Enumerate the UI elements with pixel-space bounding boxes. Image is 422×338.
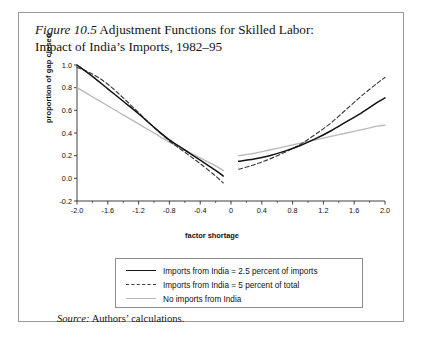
y-axis-tick-label: 0.2 — [62, 151, 72, 160]
series-line — [239, 77, 385, 169]
series-line — [77, 67, 223, 183]
x-axis-tick-label: 0.4 — [257, 206, 267, 215]
x-axis-tick-label: 1.6 — [349, 206, 359, 215]
y-axis-tick-label: 0.6 — [62, 106, 72, 115]
legend-item: No imports from India — [126, 292, 362, 306]
chart-plot-area: proportion of gap closed -0.20.00.20.40.… — [33, 59, 391, 249]
y-axis-tick-label: 0.4 — [62, 129, 72, 138]
source-value: Authors’ calculations. — [90, 313, 185, 324]
figure-frame: Figure 10.5 Adjustment Functions for Ski… — [18, 12, 404, 322]
series-line — [77, 88, 223, 171]
x-axis-title: factor shortage — [33, 231, 391, 240]
y-axis-tick-label: 0.8 — [62, 83, 72, 92]
y-axis-tick-label: 1.0 — [62, 61, 72, 70]
x-axis-tick-label: -1.6 — [102, 206, 115, 215]
x-axis-tick-label: 1.2 — [318, 206, 328, 215]
x-axis-tick-label: 0.8 — [288, 206, 298, 215]
chart-legend: Imports from India = 2.5 percent of impo… — [115, 258, 363, 308]
legend-item-label: Imports from India = 5 percent of total — [163, 281, 299, 290]
y-axis-tick-label: -0.2 — [59, 197, 72, 206]
legend-item: Imports from India = 5 percent of total — [126, 278, 362, 292]
x-axis-tick-label: -1.2 — [132, 206, 145, 215]
legend-item: Imports from India = 2.5 percent of impo… — [126, 264, 362, 278]
x-axis-tick-label: -0.8 — [163, 206, 176, 215]
legend-item-label: Imports from India = 2.5 percent of impo… — [163, 267, 318, 276]
legend-key-icon — [126, 280, 156, 290]
legend-key-icon — [126, 266, 156, 276]
legend-key-icon — [126, 294, 156, 304]
figure-title: Figure 10.5 Adjustment Functions for Ski… — [35, 21, 387, 55]
adjustment-function-plot: -0.20.00.20.40.60.81.0-2.0-1.6-1.2-0.8-0… — [33, 59, 391, 234]
y-axis-tick-label: 0.0 — [62, 174, 72, 183]
y-axis-title: proportion of gap closed — [44, 109, 53, 123]
legend-item-label: No imports from India — [163, 295, 241, 304]
source-note: Source: Authors’ calculations. — [57, 313, 184, 324]
figure-title-line2: Impact of India’s Imports, 1982–95 — [35, 39, 222, 54]
x-axis-tick-label: -0.4 — [194, 206, 207, 215]
figure-title-line1: Adjustment Functions for Skilled Labor: — [97, 22, 314, 37]
series-line — [77, 65, 223, 176]
x-axis-tick-label: 0 — [229, 206, 233, 215]
x-axis-tick-label: 2.0 — [380, 206, 390, 215]
x-axis-tick-label: -2.0 — [71, 206, 84, 215]
source-label: Source: — [57, 313, 90, 324]
